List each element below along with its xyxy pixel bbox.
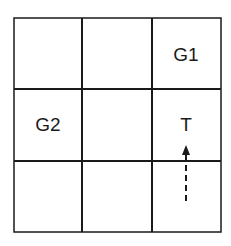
cell-label-t: T (180, 115, 192, 134)
dashed-up-arrow-icon (182, 145, 190, 201)
cell-label-g1: G1 (173, 45, 198, 64)
cell-label-g2: G2 (35, 115, 60, 134)
